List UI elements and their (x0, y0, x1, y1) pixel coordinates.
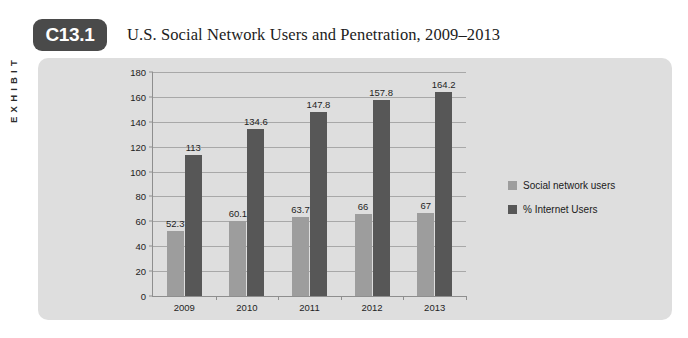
exhibit-side-label: EXHIBIT (0, 14, 26, 164)
x-tick-mark (403, 296, 404, 300)
legend-label: % Internet Users (523, 204, 597, 215)
page-title: U.S. Social Network Users and Penetratio… (127, 25, 500, 45)
y-tick-label: 40 (135, 241, 146, 252)
bar-group: 66157.8 (341, 72, 404, 296)
bar-percent-internet-users[interactable]: 147.8 (310, 112, 327, 296)
bar-value-label: 66 (358, 201, 369, 212)
bar-value-label: 147.8 (307, 99, 331, 110)
x-tick-mark (216, 296, 217, 300)
x-tick-mark (341, 296, 342, 300)
exhibit-header: C13.1 U.S. Social Network Users and Pene… (33, 17, 500, 53)
chart-legend: Social network users% Internet Users (508, 180, 615, 228)
bar-value-label: 60.1 (229, 208, 248, 219)
x-tick-label: 2009 (174, 302, 195, 313)
bar-value-label: 157.8 (369, 87, 393, 98)
x-tick-label: 2012 (362, 302, 383, 313)
bar-percent-internet-users[interactable]: 164.2 (435, 92, 452, 296)
exhibit-number-badge: C13.1 (33, 19, 107, 51)
bar-social-network-users[interactable]: 52.3 (167, 231, 184, 296)
bar-group: 52.3113 (153, 72, 216, 296)
legend-item[interactable]: Social network users (508, 180, 615, 191)
bar-value-label: 63.7 (291, 204, 310, 215)
bar-value-label: 164.2 (432, 79, 456, 90)
y-tick-label: 80 (135, 191, 146, 202)
exhibit-side-label-text: EXHIBIT (8, 56, 19, 123)
gridline (153, 296, 466, 297)
bar-social-network-users[interactable]: 67 (417, 213, 434, 296)
legend-item[interactable]: % Internet Users (508, 204, 615, 215)
x-tick-mark (278, 296, 279, 300)
bar-percent-internet-users[interactable]: 134.6 (247, 129, 264, 297)
bar-value-label: 134.6 (244, 116, 268, 127)
bar-percent-internet-users[interactable]: 157.8 (373, 100, 390, 296)
y-tick-label: 140 (130, 116, 146, 127)
y-tick-label: 100 (130, 166, 146, 177)
bar-group: 67164.2 (403, 72, 466, 296)
y-tick-label: 20 (135, 266, 146, 277)
y-tick-label: 60 (135, 216, 146, 227)
x-tick-label: 2013 (424, 302, 445, 313)
bar-social-network-users[interactable]: 63.7 (292, 217, 309, 296)
bar-group: 63.7147.8 (278, 72, 341, 296)
x-tick-label: 2010 (236, 302, 257, 313)
y-tick-label: 180 (130, 67, 146, 78)
legend-label: Social network users (523, 180, 615, 191)
x-tick-label: 2011 (299, 302, 319, 313)
bar-social-network-users[interactable]: 66 (355, 214, 372, 296)
y-tick-label: 120 (130, 141, 146, 152)
y-tick-label: 160 (130, 91, 146, 102)
bar-value-label: 67 (420, 200, 431, 211)
bar-social-network-users[interactable]: 60.1 (229, 221, 246, 296)
legend-swatch-icon (508, 181, 517, 190)
chart-panel: 020406080100120140160180 52.311360.1134.… (38, 58, 672, 320)
bar-group: 60.1134.6 (216, 72, 279, 296)
y-tick-label: 0 (141, 291, 146, 302)
bar-percent-internet-users[interactable]: 113 (185, 155, 202, 296)
x-tick-mark (466, 296, 467, 300)
legend-swatch-icon (508, 205, 517, 214)
bar-value-label: 113 (186, 142, 201, 153)
plot-area: 020406080100120140160180 52.311360.1134.… (153, 72, 466, 296)
bar-value-label: 52.3 (166, 218, 185, 229)
